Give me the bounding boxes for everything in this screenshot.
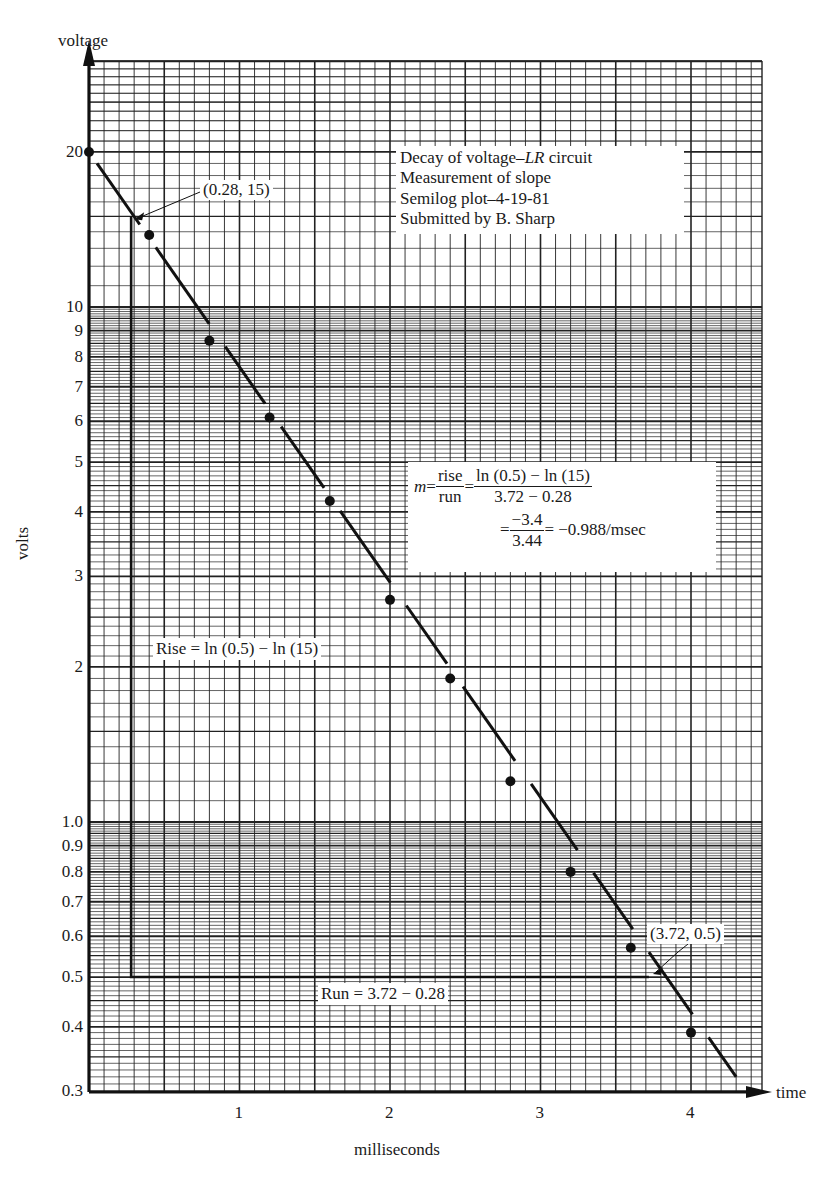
y-tick-label: 2 — [75, 658, 84, 675]
y-tick-label: 0.9 — [62, 837, 83, 854]
y-tick-label: 5 — [75, 453, 84, 470]
rise-run-guides — [131, 192, 688, 977]
data-point — [385, 595, 395, 605]
y-tick-label: 7 — [75, 378, 84, 395]
x-tick-label: 1 — [235, 1104, 244, 1121]
numeric-fraction: −3.43.44 — [510, 510, 545, 552]
y-tick-label: 9 — [75, 322, 84, 339]
x-tick-label: 3 — [536, 1104, 545, 1121]
title-block: Decay of voltage–LR circuit Measurement … — [396, 146, 684, 234]
data-point — [686, 1028, 696, 1038]
data-point — [445, 673, 455, 683]
slope-line-1: m = riserun = ln (0.5) − ln (15)3.72 − 0… — [414, 466, 710, 508]
data-point — [144, 230, 154, 240]
data-point — [566, 867, 576, 877]
y-tick-label: 20 — [66, 143, 83, 160]
data-point — [325, 496, 335, 506]
rise-over-run: riserun — [436, 466, 465, 508]
y-tick-label: 10 — [66, 298, 83, 315]
slope-calculation-box: m = riserun = ln (0.5) − ln (15)3.72 − 0… — [408, 462, 716, 572]
y-tick-label: 1.0 — [62, 813, 83, 830]
y-tick-label: 0.3 — [62, 1082, 83, 1099]
title-line-4: Submitted by B. Sharp — [400, 209, 680, 229]
data-point — [265, 413, 275, 423]
slope-result: = −0.988/msec — [544, 520, 645, 540]
y-axis-label: volts — [14, 527, 31, 560]
data-point — [505, 776, 515, 786]
x-tick-label: 4 — [686, 1104, 695, 1121]
title-line-2: Measurement of slope — [400, 168, 680, 188]
point-a-label: (0.28, 15) — [200, 180, 273, 200]
y-tick-label: 0.7 — [62, 893, 83, 910]
point-b-label: (3.72, 0.5) — [647, 924, 724, 944]
x-tick-label: 2 — [385, 1104, 394, 1121]
data-point — [204, 336, 214, 346]
y-tick-label: 0.6 — [62, 927, 83, 944]
log-difference-fraction: ln (0.5) − ln (15)3.72 − 0.28 — [474, 466, 592, 508]
slope-line-2: = −3.43.44 = −0.988/msec — [500, 510, 710, 552]
y-tick-label: 4 — [75, 503, 84, 520]
data-point — [626, 943, 636, 953]
title-line-3: Semilog plot–4-19-81 — [400, 189, 680, 209]
run-label: Run = 3.72 − 0.28 — [318, 983, 448, 1005]
y-tick-label: 8 — [75, 348, 84, 365]
y-tick-label: 0.4 — [62, 1018, 83, 1035]
x-axis-label: milliseconds — [354, 1141, 440, 1158]
title-line-1: Decay of voltage–LR circuit — [400, 148, 680, 168]
rise-label: Rise = ln (0.5) − ln (15) — [153, 638, 321, 660]
x-axis-end-label: time — [776, 1084, 806, 1101]
y-tick-label: 6 — [75, 412, 84, 429]
y-tick-label: 0.8 — [62, 863, 83, 880]
y-tick-label: 0.5 — [62, 968, 83, 985]
y-axis-top-label: voltage — [58, 32, 108, 49]
y-tick-label: 3 — [75, 567, 84, 584]
